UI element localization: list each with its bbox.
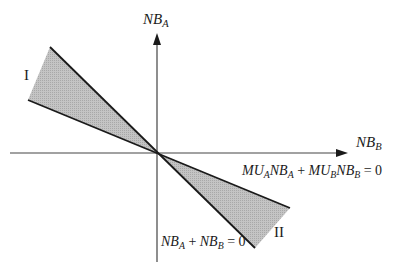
region-ii-label: II <box>274 225 284 240</box>
vertical-axis-label: NBA <box>143 12 169 30</box>
diagram-svg <box>0 0 395 274</box>
horizontal-axis-label: NBB <box>356 135 382 153</box>
region-i-shading <box>28 47 157 153</box>
horizontal-axis-arrow-icon <box>336 149 348 157</box>
mu-line-equation: MUANBA + MUBNBB = 0 <box>242 164 382 180</box>
region-i-label: I <box>24 68 29 83</box>
sum-line <box>50 47 255 248</box>
vertical-axis-arrow-icon <box>153 33 161 45</box>
diagram-canvas: NBA NBB I II MUANBA + MUBNBB = 0 NBA + N… <box>0 0 395 274</box>
sum-line-equation: NBA + NBB = 0 <box>161 235 246 251</box>
